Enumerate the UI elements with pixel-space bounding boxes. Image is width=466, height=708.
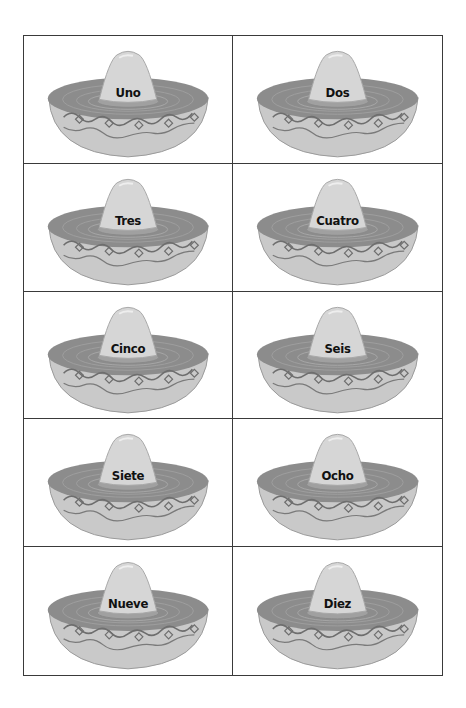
card-cuatro: Cuatro — [233, 164, 442, 292]
card-seis: Seis — [233, 292, 442, 420]
card-label: Seis — [324, 341, 350, 356]
card-label: Tres — [115, 213, 141, 228]
card-label: Cinco — [111, 341, 145, 356]
card-label: Nueve — [108, 596, 148, 611]
card-grid: Uno Dos — [23, 35, 443, 676]
card-label: Dos — [326, 85, 350, 100]
card-cinco: Cinco — [24, 292, 233, 420]
card-dos: Dos — [233, 36, 442, 164]
card-diez: Diez — [233, 547, 442, 675]
card-nueve: Nueve — [24, 547, 233, 675]
card-label: Cuatro — [316, 213, 358, 228]
card-siete: Siete — [24, 419, 233, 547]
card-ocho: Ocho — [233, 419, 442, 547]
card-tres: Tres — [24, 164, 233, 292]
card-label: Diez — [324, 596, 351, 611]
card-uno: Uno — [24, 36, 233, 164]
card-label: Ocho — [321, 468, 353, 483]
card-label: Uno — [116, 85, 141, 100]
card-label: Siete — [112, 468, 144, 483]
